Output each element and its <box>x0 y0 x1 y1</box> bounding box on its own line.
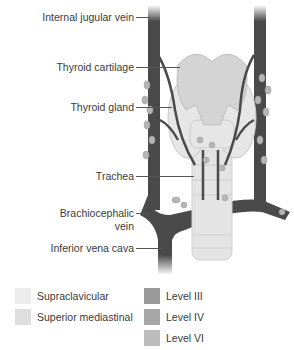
leader-line <box>136 248 162 249</box>
swatch-level-iv <box>144 309 160 325</box>
swatch-level-iii <box>144 288 160 304</box>
neck-anatomy-diagram <box>0 0 294 275</box>
trachea <box>192 150 232 260</box>
legend-supraclavicular: Supraclavicular <box>15 288 109 304</box>
leader-line <box>136 17 150 18</box>
swatch-superior-mediastinal <box>15 309 31 325</box>
leader-line <box>136 67 180 68</box>
legend-level-vi: Level VI <box>144 330 204 346</box>
leader-line <box>136 107 172 108</box>
legend-level-iii: Level III <box>144 288 203 304</box>
legend-superior-mediastinal: Superior mediastinal <box>15 309 133 325</box>
swatch-supraclavicular <box>15 288 31 304</box>
leader-line <box>136 176 194 177</box>
leader-line <box>136 213 150 214</box>
swatch-level-vi <box>144 330 160 346</box>
legend-level-iv: Level IV <box>144 309 204 325</box>
